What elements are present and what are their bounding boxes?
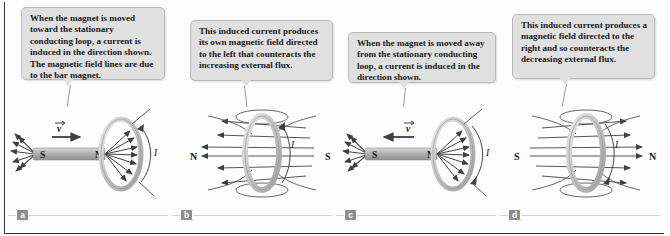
- current-label-b: I: [290, 140, 295, 150]
- current-label-d: I: [614, 140, 619, 150]
- caption-bubble-d: This induced current produces a magnetic…: [512, 14, 655, 79]
- panel-label-c: c: [344, 209, 357, 221]
- magnet-pole-south-a: S: [40, 150, 45, 160]
- velocity-symbol-c: v: [406, 124, 411, 134]
- magnet-pole-south-c: S: [372, 150, 377, 160]
- caption-tail-a: [63, 79, 73, 86]
- conducting-loop-b: [245, 116, 279, 190]
- velocity-symbol-a: v: [57, 124, 62, 134]
- rule-b: [172, 215, 332, 216]
- caption-text-c: When the magnet is moved away from the s…: [357, 38, 485, 82]
- field-lines-b: [202, 121, 314, 183]
- figure-left-border: [4, 2, 5, 234]
- panel-b-diagram: N S I: [178, 104, 343, 199]
- panel-label-d: d: [508, 209, 521, 221]
- conducting-loop-d: [569, 116, 603, 190]
- field-lines-south-a: [11, 134, 34, 171]
- rule-d: [500, 215, 660, 216]
- field-lines-north-a: [105, 131, 137, 181]
- panel-a-diagram: S N v: [8, 104, 173, 199]
- panel-d-diagram: S N I: [502, 104, 667, 199]
- caption-bubble-c: When the magnet is moved away from the s…: [348, 32, 496, 83]
- physics-figure-induced-current: When the magnet is moved toward the stat…: [0, 0, 670, 236]
- caption-text-b: This induced current produces its own ma…: [199, 26, 318, 70]
- caption-text-d: This induced current produces a magnetic…: [521, 20, 647, 64]
- induced-pole-right-b: S: [325, 151, 331, 162]
- caption-text-a: When the magnet is moved toward the stat…: [30, 13, 153, 80]
- caption-bubble-b: This induced current produces its own ma…: [190, 20, 333, 81]
- caption-tail-b: [241, 80, 251, 87]
- field-lines-d: [530, 121, 642, 183]
- panel-label-a: a: [16, 209, 29, 221]
- panel-c-diagram: S N v: [340, 104, 505, 199]
- field-lines-north-c: [437, 131, 469, 181]
- induced-pole-left-d: S: [514, 151, 520, 162]
- velocity-vector-a: v: [52, 121, 80, 137]
- rule-c: [336, 215, 496, 216]
- caption-bubble-a: When the magnet is moved toward the stat…: [21, 7, 165, 80]
- panel-label-b: b: [180, 209, 193, 221]
- induced-pole-right-d: N: [649, 151, 657, 162]
- current-label-a: I: [153, 148, 158, 158]
- current-label-c: I: [485, 148, 490, 158]
- induced-pole-left-b: N: [190, 151, 198, 162]
- velocity-vector-c: v: [384, 121, 414, 137]
- figure-bottom-border: [4, 233, 664, 234]
- rule-a: [8, 215, 168, 216]
- field-lines-south-c: [343, 134, 366, 171]
